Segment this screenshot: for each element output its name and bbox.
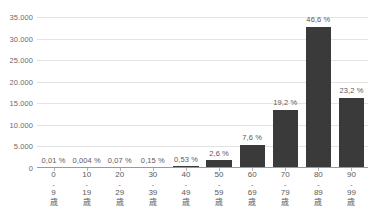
bar-slot: 0,01 % [37,17,70,168]
age-unit-label: 歳 [70,198,103,209]
x-axis-tick-mark [54,168,55,171]
bar[interactable] [273,110,298,168]
x-axis-category-label: 60-69歳 [236,170,269,209]
bar-slot: 46,6 % [302,17,335,168]
bar-slot: 2,6 % [203,17,236,168]
bar-data-label: 0,53 % [169,155,202,164]
age-range-end: 39 [136,188,169,199]
y-axis-tick-label: 5.000 [14,142,33,151]
age-range-end: 69 [236,188,269,199]
age-unit-label: 歳 [269,198,302,209]
bar-data-label: 0,07 % [103,156,136,165]
x-axis-tick-mark [219,168,220,171]
age-range-end: 59 [203,188,236,199]
age-unit-label: 歳 [302,198,335,209]
age-unit-label: 歳 [169,198,202,209]
bar-data-label: 0,15 % [136,156,169,165]
age-unit-label: 歳 [37,198,70,209]
x-axis-category-label: 40-49歳 [169,170,202,209]
bar-slot: 0,004 % [70,17,103,168]
bar-data-label: 23,2 % [335,86,368,95]
bar-data-label: 0,01 % [37,156,70,165]
age-range-dash: - [136,181,169,188]
age-range-end: 89 [302,188,335,199]
y-axis-tick-label: 30.000 [9,34,33,43]
x-axis-tick-mark [318,168,319,171]
y-axis-tick-label: 10.000 [9,120,33,129]
x-axis-category-label: 20-29歳 [103,170,136,209]
age-range-dash: - [335,181,368,188]
age-range-dash: - [302,181,335,188]
x-axis-category-label: 10-19歳 [70,170,103,209]
y-axis-tick-label: 25.000 [9,56,33,65]
y-axis-tick-label: 35.000 [9,13,33,22]
age-unit-label: 歳 [103,198,136,209]
bar[interactable] [306,27,331,169]
plot-area: 0,01 %0,004 %0,07 %0,15 %0,53 %2,6 %7,6 … [37,17,368,168]
bar-slot: 0,15 % [136,17,169,168]
x-axis-tick-mark [285,168,286,171]
age-unit-label: 歳 [335,198,368,209]
age-range-dash: - [203,181,236,188]
x-axis-category-label: 0-9歳 [37,170,70,209]
age-range-start: 60 [236,170,269,181]
x-axis-category-label: 70-79歳 [269,170,302,209]
age-range-start: 90 [335,170,368,181]
age-range-start: 20 [103,170,136,181]
bar-data-label: 19,2 % [269,98,302,107]
age-range-dash: - [103,181,136,188]
age-range-dash: - [236,181,269,188]
age-range-end: 9 [37,188,70,199]
age-range-dash: - [169,181,202,188]
x-axis-tick-mark [351,168,352,171]
age-range-start: 70 [269,170,302,181]
age-range-end: 49 [169,188,202,199]
age-unit-label: 歳 [236,198,269,209]
bar-slot: 7,6 % [236,17,269,168]
x-axis-tick-mark [186,168,187,171]
x-axis-category-label: 30-39歳 [136,170,169,209]
age-unit-label: 歳 [203,198,236,209]
bar-slot: 23,2 % [335,17,368,168]
bar[interactable] [339,98,364,168]
x-axis-tick-mark [120,168,121,171]
age-range-end: 29 [103,188,136,199]
age-range-start: 80 [302,170,335,181]
x-axis-tick-mark [87,168,88,171]
y-axis-tick-label: 15.000 [9,99,33,108]
age-range-start: 10 [70,170,103,181]
x-axis: 0-9歳10-19歳20-29歳30-39歳40-49歳50-59歳60-69歳… [37,170,368,218]
x-axis-tick-mark [252,168,253,171]
age-range-start: 0 [37,170,70,181]
x-axis-category-label: 90-99歳 [335,170,368,209]
bar-chart: 05.00010.00015.00020.00025.00030.00035.0… [0,0,374,218]
x-axis-tick-mark [153,168,154,171]
age-unit-label: 歳 [136,198,169,209]
x-axis-category-label: 50-59歳 [203,170,236,209]
bar-slot: 19,2 % [269,17,302,168]
age-range-start: 40 [169,170,202,181]
bar[interactable] [240,145,265,168]
age-range-end: 99 [335,188,368,199]
x-axis-category-label: 80-89歳 [302,170,335,209]
bar-series: 0,01 %0,004 %0,07 %0,15 %0,53 %2,6 %7,6 … [37,17,368,168]
age-range-dash: - [37,181,70,188]
age-range-dash: - [70,181,103,188]
age-range-start: 50 [203,170,236,181]
y-axis-tick-label: 20.000 [9,77,33,86]
age-range-end: 79 [269,188,302,199]
age-range-end: 19 [70,188,103,199]
bar-data-label: 7,6 % [236,133,269,142]
bar-slot: 0,07 % [103,17,136,168]
bar-data-label: 2,6 % [203,149,236,158]
age-range-start: 30 [136,170,169,181]
bar-data-label: 0,004 % [70,156,103,165]
bar-data-label: 46,6 % [302,15,335,24]
y-axis: 05.00010.00015.00020.00025.00030.00035.0… [0,0,36,218]
age-range-dash: - [269,181,302,188]
bar-slot: 0,53 % [169,17,202,168]
y-axis-tick-label: 0 [29,164,33,173]
